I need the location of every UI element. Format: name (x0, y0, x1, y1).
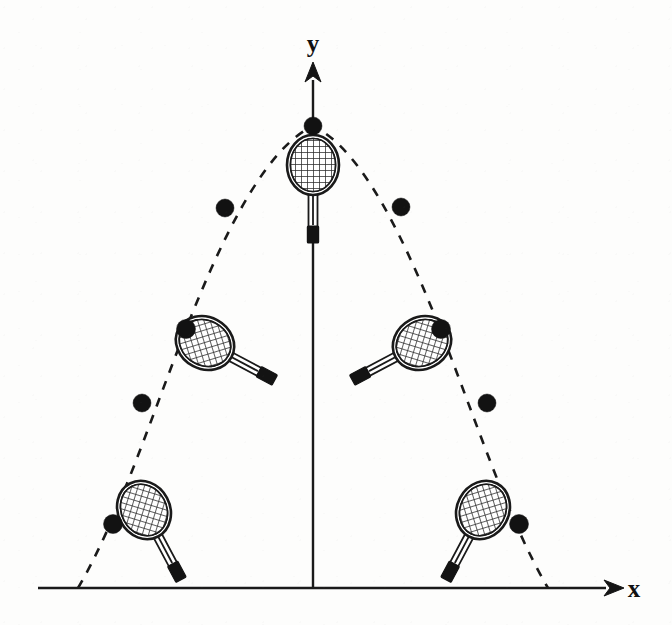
ball-marker (510, 515, 529, 534)
ball-marker (104, 515, 123, 534)
ball-marker-apex (304, 117, 322, 135)
y-axis-label: y (307, 30, 320, 57)
racket-lower-right (419, 466, 525, 594)
x-axis-arrowhead-icon (604, 580, 624, 596)
ball-marker (478, 394, 496, 412)
y-axis-arrowhead-icon (305, 62, 321, 82)
trajectory-diagram: x y (0, 0, 672, 625)
ball-marker (216, 199, 234, 217)
x-axis-label: x (628, 575, 641, 602)
figure-canvas: x y (0, 0, 672, 625)
ball-marker (133, 394, 151, 412)
racket-apex (285, 133, 341, 243)
racket-upper-right (338, 301, 466, 407)
ball-marker (177, 320, 196, 339)
ball-marker (432, 320, 451, 339)
racket-upper-left (161, 301, 289, 407)
ball-marker (392, 198, 410, 216)
